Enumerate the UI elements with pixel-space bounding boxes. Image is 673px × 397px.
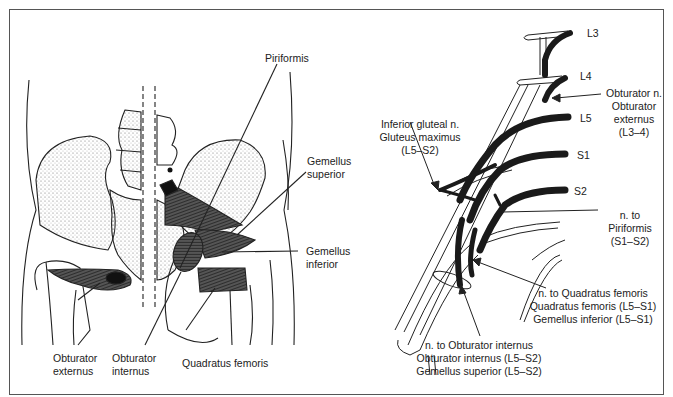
label-obturator-nerve: Obturator n. Obturator externus (L3–4) bbox=[599, 87, 669, 139]
label-nerve-to-piriformis: n. to Piriformis (S1–S2) bbox=[600, 209, 660, 248]
root-label-s1: S1 bbox=[577, 149, 590, 162]
label-piriformis: Piriformis bbox=[265, 52, 309, 65]
diagram-artwork bbox=[0, 0, 673, 397]
root-label-s2: S2 bbox=[574, 185, 587, 198]
label-nerve-to-quadratus-femoris: n. to Quadratus femoris Quadratus femori… bbox=[523, 287, 663, 326]
label-obturator-externus: Obturator externus bbox=[53, 352, 97, 378]
pelvis-illustration bbox=[22, 64, 306, 345]
label-nerve-to-obturator-internus: n. to Obturator internus Obturator inter… bbox=[404, 339, 554, 378]
label-gemellus-superior: Gemellus superior bbox=[307, 155, 351, 181]
label-quadratus-femoris: Quadratus femoris bbox=[182, 357, 268, 370]
label-gemellus-inferior: Gemellus inferior bbox=[306, 245, 350, 271]
label-inferior-gluteal-nerve: Inferior gluteal n. Gluteus maximus (L5–… bbox=[360, 118, 480, 157]
root-label-l3: L3 bbox=[587, 27, 599, 40]
root-label-l5: L5 bbox=[580, 112, 592, 125]
label-obturator-internus: Obturator internus bbox=[112, 352, 156, 378]
root-label-l4: L4 bbox=[580, 70, 592, 83]
